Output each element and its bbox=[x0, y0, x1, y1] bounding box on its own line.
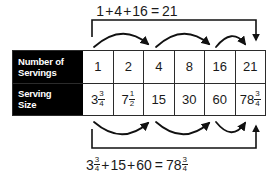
servings-table: Number of Servings 1 2 4 8 16 21 Serving… bbox=[12, 50, 266, 116]
cell-servings-6: 21 bbox=[235, 51, 266, 83]
cell-size-2: 712 bbox=[113, 84, 144, 116]
mixed-whole: 7 bbox=[121, 92, 128, 107]
bottom-equation-term-2: 15 bbox=[110, 157, 126, 173]
cell-value: 1 bbox=[94, 59, 101, 74]
fraction-numerator: 3 bbox=[254, 90, 260, 98]
fraction-denominator: 2 bbox=[129, 99, 135, 108]
bottom-arc-1 bbox=[94, 122, 148, 134]
diagram-canvas: 1+4+16=21 Number of Servings 1 2 4 8 16 … bbox=[0, 0, 274, 179]
bottom-equation: 334+15+60=7834 bbox=[0, 156, 274, 174]
fraction-denominator: 4 bbox=[254, 99, 260, 108]
fraction-numerator: 3 bbox=[98, 90, 104, 98]
row-label-serving-size: Serving Size bbox=[13, 84, 83, 116]
bottom-equation-equals: = bbox=[152, 157, 166, 173]
top-arc-1 bbox=[94, 34, 148, 47]
mixed-whole: 3 bbox=[91, 92, 98, 107]
bottom-equation-plus-1: + bbox=[100, 157, 110, 173]
bottom-equation-plus-2: + bbox=[126, 157, 136, 173]
bottom-sum-bracket bbox=[92, 126, 256, 148]
top-equation-plus-2: + bbox=[122, 3, 132, 19]
top-sum-bracket bbox=[92, 20, 256, 40]
fraction-denominator: 4 bbox=[182, 164, 188, 173]
fraction-numerator: 3 bbox=[94, 156, 100, 164]
fraction-numerator: 1 bbox=[129, 90, 135, 98]
fraction-denominator: 4 bbox=[94, 164, 100, 173]
fraction: 34 bbox=[254, 90, 260, 108]
cell-size-3: 15 bbox=[143, 84, 174, 116]
top-equation-result: 21 bbox=[162, 3, 178, 19]
top-equation: 1+4+16=21 bbox=[0, 3, 274, 19]
fraction: 12 bbox=[129, 90, 135, 108]
table-row-number-of-servings: Number of Servings 1 2 4 8 16 21 bbox=[13, 51, 265, 84]
row-label-line-1: Number of bbox=[18, 56, 83, 67]
row-label-line-2: Size bbox=[18, 99, 83, 110]
cell-servings-3: 4 bbox=[143, 51, 174, 83]
mixed-whole: 78 bbox=[166, 157, 182, 173]
top-arc-3 bbox=[216, 36, 245, 47]
cell-size-5: 60 bbox=[204, 84, 235, 116]
mixed-whole: 78 bbox=[240, 92, 254, 107]
cell-value: 30 bbox=[182, 92, 196, 107]
mixed-number: 7834 bbox=[240, 90, 261, 108]
fraction: 34 bbox=[182, 156, 188, 174]
cell-size-6: 7834 bbox=[235, 84, 266, 116]
fraction: 34 bbox=[94, 156, 100, 174]
row-label-number-of-servings: Number of Servings bbox=[13, 51, 83, 83]
table-row-serving-size: Serving Size 334 712 15 30 60 7834 bbox=[13, 84, 265, 116]
top-equation-plus-1: + bbox=[104, 3, 114, 19]
row-label-line-1: Serving bbox=[18, 88, 83, 99]
cell-servings-5: 16 bbox=[204, 51, 235, 83]
top-equation-term-3: 16 bbox=[132, 3, 148, 19]
cell-servings-4: 8 bbox=[174, 51, 205, 83]
cell-servings-1: 1 bbox=[83, 51, 113, 83]
bottom-equation-result: 7834 bbox=[166, 156, 188, 174]
top-equation-equals: = bbox=[148, 3, 162, 19]
fraction-numerator: 3 bbox=[182, 156, 188, 164]
cell-value: 21 bbox=[243, 59, 257, 74]
cell-value: 15 bbox=[152, 92, 166, 107]
top-arc-2 bbox=[156, 34, 209, 47]
bottom-arc-2 bbox=[156, 122, 209, 134]
bottom-equation-term-1: 334 bbox=[86, 156, 100, 174]
cell-value: 4 bbox=[155, 59, 162, 74]
cell-servings-2: 2 bbox=[113, 51, 144, 83]
bottom-arc-3 bbox=[216, 122, 245, 132]
mixed-whole: 3 bbox=[86, 157, 94, 173]
fraction-denominator: 4 bbox=[98, 99, 104, 108]
cell-size-1: 334 bbox=[83, 84, 113, 116]
cell-value: 2 bbox=[125, 59, 132, 74]
cell-size-4: 30 bbox=[174, 84, 205, 116]
mixed-number: 334 bbox=[91, 90, 105, 108]
cell-value: 16 bbox=[213, 59, 227, 74]
top-equation-term-2: 4 bbox=[114, 3, 122, 19]
mixed-number: 712 bbox=[121, 90, 135, 108]
cell-value: 8 bbox=[186, 59, 193, 74]
top-equation-term-1: 1 bbox=[96, 3, 104, 19]
cell-value: 60 bbox=[213, 92, 227, 107]
fraction: 34 bbox=[98, 90, 104, 108]
row-label-line-2: Servings bbox=[18, 67, 83, 78]
bottom-equation-term-3: 60 bbox=[136, 157, 152, 173]
